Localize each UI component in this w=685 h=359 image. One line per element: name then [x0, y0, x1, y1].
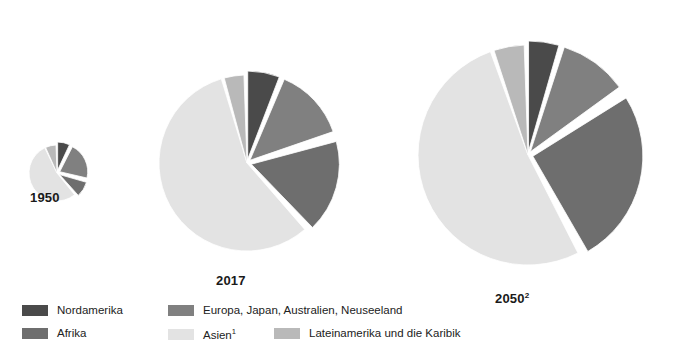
year-label-superscript: 2 [525, 291, 530, 300]
year-label-1950: 1950 [30, 190, 60, 205]
legend-swatch-lateinamerika-und-die-karibik [274, 328, 300, 339]
legend-label-nordamerika: Nordamerika [57, 305, 123, 317]
legend-item-nordamerika[interactable]: Nordamerika [22, 305, 123, 317]
legend-item-europa[interactable]: Europa, Japan, Australien, Neuseeland [168, 305, 402, 317]
legend-label-asien: Asien1 [203, 328, 236, 341]
pie-chart-figure: 1950201720502 NordamerikaEuropa, Japan, … [0, 0, 685, 359]
legend-item-afrika[interactable]: Afrika [22, 328, 86, 340]
pie-2050 [404, 31, 652, 279]
legend-item-lateinamerika-und-die-karibik[interactable]: Lateinamerika und die Karibik [274, 328, 461, 340]
legend-label-europa: Europa, Japan, Australien, Neuseeland [203, 305, 402, 317]
footnote-strip [0, 351, 685, 359]
legend-swatch-asien [168, 329, 194, 340]
legend-label-lateinamerika-und-die-karibik: Lateinamerika und die Karibik [309, 328, 461, 340]
legend-swatch-afrika [22, 328, 48, 339]
legend-label-superscript: 1 [232, 327, 236, 336]
legend-swatch-nordamerika [22, 305, 48, 316]
year-label-2050: 20502 [495, 291, 529, 306]
legend-swatch-europa [168, 305, 194, 316]
year-label-2017: 2017 [216, 273, 246, 288]
pie-2017 [145, 61, 349, 265]
legend-label-afrika: Afrika [57, 328, 86, 340]
legend-item-asien[interactable]: Asien1 [168, 328, 236, 341]
